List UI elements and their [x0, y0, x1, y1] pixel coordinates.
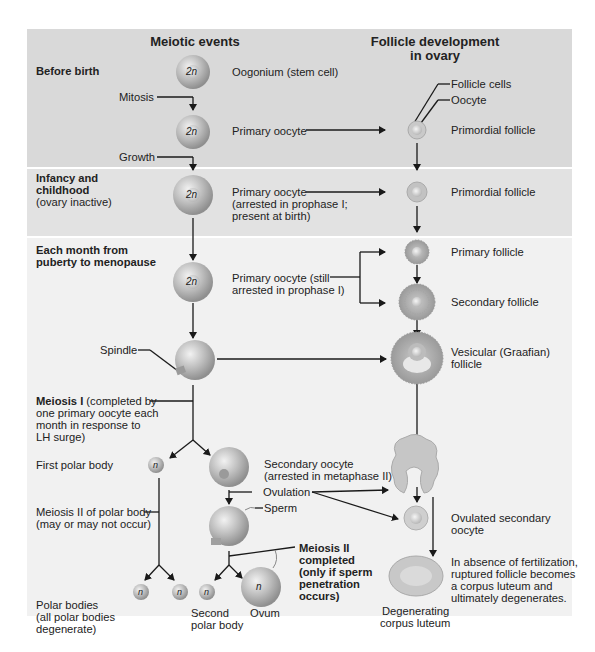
label-vesicular-follicle-1: Vesicular (Graafian)	[451, 346, 550, 359]
label-absence-1: In absence of fertilization,	[451, 556, 578, 569]
label-meiosis-1-line4: LH surge)	[36, 431, 85, 444]
label-second-polar-body-2: polar body	[191, 619, 243, 632]
label-second-polar-body-1: Second	[191, 607, 229, 620]
primordial-follicle-2	[407, 182, 427, 202]
primordial-follicle-1	[408, 121, 426, 139]
follicle-development-header-line2: in ovary	[365, 49, 505, 63]
label-meiosis-2-completed-3: (only if sperm	[299, 566, 372, 579]
label-meiosis-2-completed-2: completed	[299, 554, 355, 567]
label-meiosis-2-completed-1: Meiosis II	[299, 542, 349, 555]
corpus-luteum	[389, 556, 443, 596]
label-mitosis: Mitosis	[119, 91, 154, 104]
ploidy-n-label: n	[256, 581, 262, 594]
label-secondary-follicle: Secondary follicle	[451, 296, 539, 309]
stage-infancy-note: (ovary inactive)	[36, 196, 112, 209]
label-polar-bodies-1: Polar bodies	[36, 599, 98, 612]
label-ovulation: Ovulation	[263, 486, 310, 499]
label-absence-2: ruptured follicle becomes	[451, 568, 575, 581]
label-meiosis-1-line2: one primary oocyte each	[36, 407, 159, 420]
follicle-development-header-line1: Follicle development	[365, 35, 505, 49]
label-meiosis-2-polar-2: (may or may not occur)	[36, 518, 151, 531]
label-ovulated-oocyte-1: Ovulated secondary	[451, 512, 551, 525]
label-secondary-oocyte-1: Secondary oocyte	[264, 458, 354, 471]
label-meiosis-2-completed-5: occurs)	[299, 590, 339, 603]
label-arrested-1: Primary oocyte	[232, 186, 307, 199]
stage-monthly-line1: Each month from	[36, 244, 128, 257]
label-degenerating-2: corpus luteum	[380, 617, 450, 630]
ploidy-2n-label: 2n	[186, 66, 197, 79]
label-arrested-2: (arrested in prophase I;	[232, 198, 348, 211]
label-meiosis-1-line3: month in response to	[36, 419, 140, 432]
ploidy-2n-label: 2n	[186, 126, 197, 139]
stage-monthly-line2: puberty to menopause	[36, 256, 156, 269]
ploidy-n-label: n	[138, 586, 143, 599]
label-meiosis-1: (completed by	[83, 395, 156, 407]
label-primordial-follicle-1: Primordial follicle	[451, 124, 536, 137]
ovulated-secondary-oocyte	[404, 506, 428, 530]
meiotic-events-header: Meiotic events	[140, 35, 250, 49]
stage-before-birth: Before birth	[36, 65, 99, 78]
ploidy-n-label: n	[204, 586, 209, 599]
diagram-graphics	[0, 0, 595, 652]
label-secondary-oocyte-2: (arrested in metaphase II)	[264, 470, 392, 483]
label-meiosis-2-completed-4: penetration	[299, 578, 360, 591]
label-ovulated-oocyte-2: oocyte	[451, 524, 484, 537]
label-vesicular-follicle-2: follicle	[451, 358, 482, 371]
label-polar-bodies-2: (all polar bodies	[36, 611, 115, 624]
secondary-follicle	[399, 284, 435, 320]
label-meiosis-2-polar-1: Meiosis II of polar body	[36, 506, 151, 519]
label-meiosis-1-bold: Meiosis I	[36, 395, 83, 407]
label-sperm: Sperm	[264, 502, 297, 515]
label-absence-3: a corpus luteum and	[451, 580, 552, 593]
label-polar-bodies-3: degenerate)	[36, 623, 96, 636]
ploidy-n-label: n	[153, 459, 158, 472]
stage-infancy-line1: Infancy and	[36, 172, 98, 185]
label-follicle-cells: Follicle cells	[451, 78, 511, 91]
ploidy-2n-label: 2n	[186, 189, 197, 202]
ploidy-2n-label: 2n	[186, 276, 197, 289]
label-first-polar-body: First polar body	[36, 459, 113, 472]
label-primary-oocyte: Primary oocyte	[232, 125, 307, 138]
label-oocyte: Oocyte	[451, 94, 486, 107]
stage-infancy-line2: childhood	[36, 184, 89, 197]
label-arrested-3: present at birth)	[232, 210, 310, 223]
label-spindle: Spindle	[100, 344, 137, 357]
label-primary-follicle: Primary follicle	[451, 246, 524, 259]
label-oogonium: Oogonium (stem cell)	[232, 66, 338, 79]
primary-follicle	[405, 240, 429, 264]
ploidy-n-label: n	[177, 586, 182, 599]
label-ovum: Ovum	[250, 607, 280, 620]
ruptured-follicle	[391, 434, 438, 493]
label-growth: Growth	[119, 151, 155, 164]
label-still-arrested-1: Primary oocyte (still	[232, 272, 330, 285]
label-absence-4: ultimately degenerates.	[451, 592, 567, 605]
label-degenerating-1: Degenerating	[382, 605, 449, 618]
label-still-arrested-2: arrested in prophase I)	[232, 284, 345, 297]
vesicular-follicle	[391, 332, 443, 384]
label-primordial-follicle-2: Primordial follicle	[451, 186, 536, 199]
